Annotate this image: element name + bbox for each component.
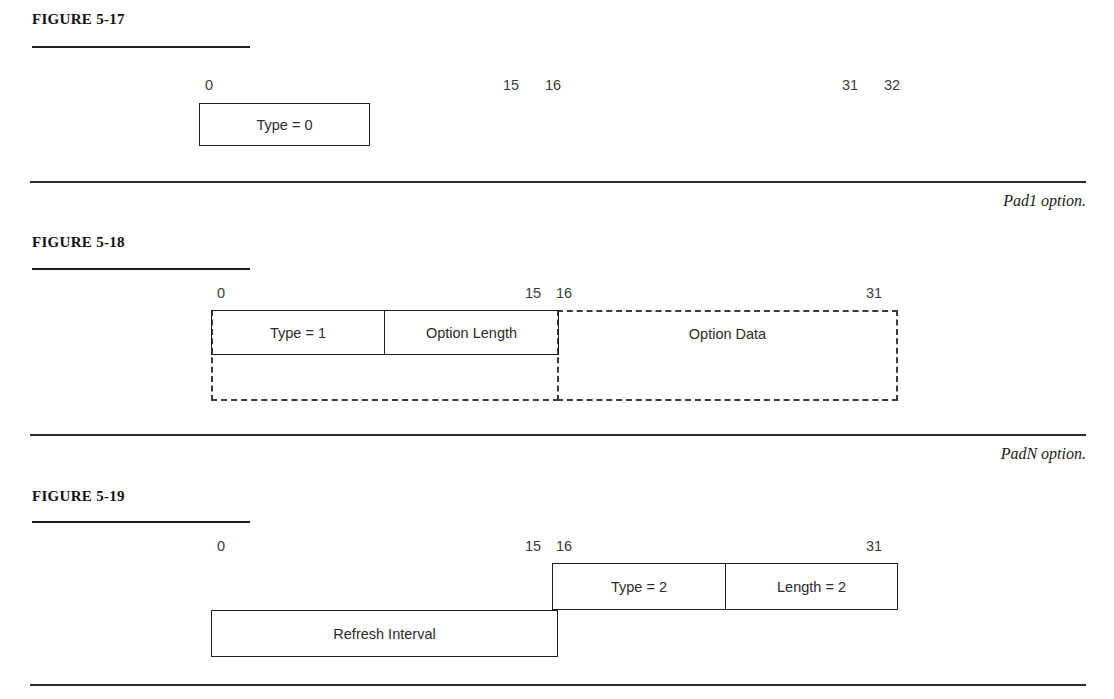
section-divider-1 [30, 181, 1086, 183]
figure-caption-5-18: PadN option. [1001, 445, 1086, 463]
figure-label-5-19: FIGURE 5-19 [32, 488, 125, 505]
section-divider-3 [30, 684, 1086, 686]
bit-label-32: 32 [884, 77, 900, 93]
field-label-refresh-interval: Refresh Interval [333, 626, 435, 642]
field-box-option-data: Option Data [557, 310, 898, 401]
bit-label-0: 0 [217, 538, 225, 554]
field-box-type: Type = 2 [552, 563, 726, 610]
bit-label-0: 0 [205, 77, 213, 93]
field-box-type: Type = 1 [211, 310, 385, 355]
figure-caption-5-17: Pad1 option. [1003, 192, 1086, 210]
figure-label-5-18: FIGURE 5-18 [32, 234, 125, 251]
bit-label-31: 31 [842, 77, 858, 93]
bit-label-15: 15 [525, 285, 541, 301]
bit-label-15: 15 [503, 77, 519, 93]
bit-label-15: 15 [525, 538, 541, 554]
section-divider-2 [30, 434, 1086, 436]
bit-label-0: 0 [217, 285, 225, 301]
field-box-type: Type = 0 [199, 103, 370, 146]
field-label-type: Type = 0 [256, 117, 312, 133]
field-box-refresh-interval: Refresh Interval [211, 610, 558, 657]
figure-label-5-17: FIGURE 5-17 [32, 11, 125, 28]
field-label-type: Type = 1 [270, 325, 326, 341]
bit-label-16: 16 [556, 538, 572, 554]
field-label-option-length: Option Length [426, 325, 517, 341]
field-box-option-length: Option Length [384, 310, 559, 355]
bit-label-16: 16 [556, 285, 572, 301]
bit-label-16: 16 [545, 77, 561, 93]
bit-label-31: 31 [866, 538, 882, 554]
figure-page: FIGURE 5-17 0 15 16 31 32 Type = 0 Pad1 … [0, 0, 1114, 699]
field-label-option-data: Option Data [689, 326, 766, 342]
bit-label-31: 31 [866, 285, 882, 301]
field-label-type: Type = 2 [611, 579, 667, 595]
figure-label-underline [32, 521, 250, 523]
figure-label-underline [32, 268, 250, 270]
field-box-length: Length = 2 [725, 563, 898, 610]
field-label-length: Length = 2 [777, 579, 846, 595]
figure-label-underline [32, 46, 250, 48]
